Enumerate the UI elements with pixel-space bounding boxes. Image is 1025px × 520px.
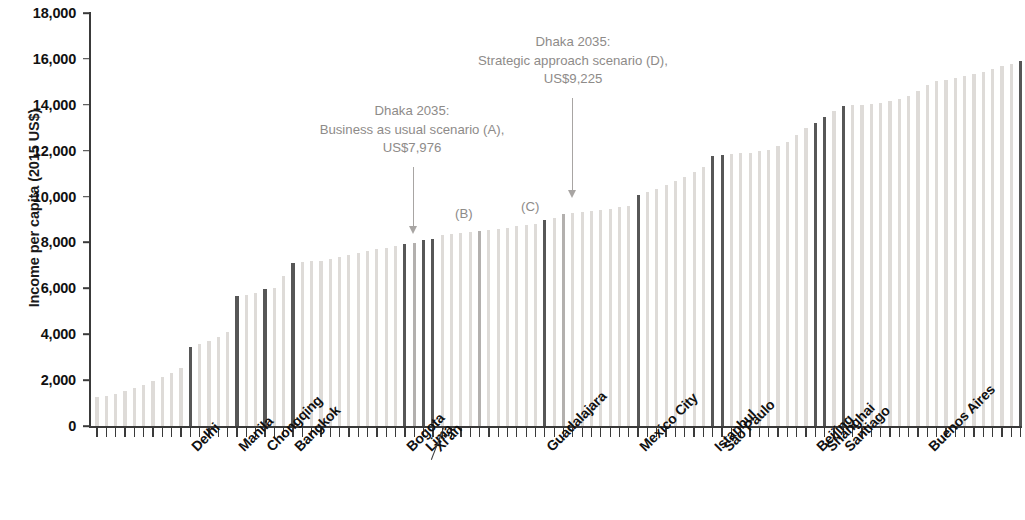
y-tick-label: 6,000 [10,280,76,296]
bar [832,111,835,426]
bar [935,81,938,426]
bar [972,74,975,426]
bar [245,295,248,426]
y-tick-label: 10,000 [10,189,76,205]
bar [860,105,863,426]
x-tick-mark [526,428,527,437]
bar [609,209,612,427]
bar [730,154,733,426]
bar [646,192,649,426]
x-tick-mark [367,428,368,437]
bar [497,229,500,426]
annotation-scenario-d: Dhaka 2035: Strategic approach scenario … [443,33,703,89]
x-tick-mark [507,428,508,437]
y-axis-spine [89,12,91,427]
bar [469,232,472,426]
bar [366,251,369,426]
bar [870,104,873,426]
x-tick-mark [544,428,545,437]
bar [478,231,481,426]
bar [170,373,173,426]
annotation-d-line3: US$9,225 [443,70,703,89]
bar [161,377,164,426]
bar [273,288,276,426]
bar [963,76,966,426]
bar [581,212,584,426]
x-tick-mark [358,428,359,437]
bar [282,276,285,427]
x-tick-mark [348,428,349,437]
bar [879,103,882,426]
bar [571,213,574,426]
bar [1019,61,1022,426]
x-tick-mark [908,428,909,437]
bar [291,263,294,426]
bar [627,206,630,426]
x-tick-mark [143,428,144,437]
bar [553,218,556,426]
bar [767,150,770,426]
x-tick-mark [815,428,816,437]
bar [450,234,453,426]
bar [385,248,388,427]
bar [123,391,126,426]
bar [851,105,854,426]
x-tick-mark [927,428,928,437]
x-tick-mark [488,428,489,437]
bar [842,106,845,426]
bar [562,214,565,426]
x-tick-mark [889,428,890,437]
annotation-a-line3: US$7,976 [282,139,542,158]
bar [515,226,518,426]
x-tick-mark [684,428,685,437]
bar [142,385,145,426]
bar [217,337,220,426]
x-tick-mark [1001,428,1002,437]
annotation-a-line1: Dhaka 2035: [282,102,542,121]
annotation-a-arrow-head [409,226,417,234]
annotation-b-label: (B) [455,206,473,221]
x-tick-mark [610,428,611,437]
x-tick-mark [115,428,116,437]
bar [907,96,910,426]
y-tick-label: 2,000 [10,372,76,388]
bar [254,293,257,426]
x-tick-mark [591,428,592,437]
bar [926,85,929,426]
bar [814,123,817,426]
x-tick-mark [395,428,396,437]
x-tick-mark [376,428,377,437]
bar [916,91,919,426]
bar [263,289,266,426]
bar [105,396,108,426]
x-tick-mark [180,428,181,437]
x-tick-mark [171,428,172,437]
bar [207,341,210,426]
y-tick-label: 4,000 [10,326,76,342]
x-axis-spine [89,426,1022,428]
annotation-d-line1: Dhaka 2035: [443,33,703,52]
income-per-capita-bar-chart: Income per capita (2015 US$) 02,0004,000… [0,0,1025,520]
bar [637,195,640,426]
bar [1010,64,1013,426]
x-tick-mark [1011,428,1012,437]
x-tick-mark [582,428,583,437]
bar [375,249,378,426]
bar [487,230,490,426]
bar [543,220,546,426]
bar [954,78,957,426]
y-tick-label: 8,000 [10,234,76,250]
bar [95,397,98,426]
x-tick-mark [796,428,797,437]
annotation-c-label: (C) [521,199,539,214]
bar [357,253,360,426]
x-tick-mark [992,428,993,437]
annotation-a-line2: Business as usual scenario (A), [282,121,542,140]
bar [655,189,658,426]
bar [721,155,724,426]
bar [413,243,416,426]
annotation-scenario-a: Dhaka 2035: Business as usual scenario (… [282,102,542,158]
x-tick-mark [190,428,191,437]
y-tick-label: 14,000 [10,97,76,113]
x-tick-mark [1020,428,1021,437]
